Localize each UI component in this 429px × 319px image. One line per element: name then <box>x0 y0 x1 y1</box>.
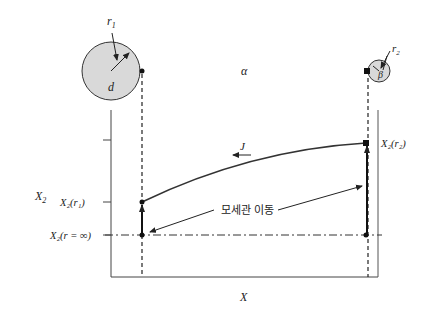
capillary-pointer-left <box>150 210 214 232</box>
y-axis-label: X2 <box>34 189 46 205</box>
label-r2: r2 <box>392 42 400 57</box>
label-X2-rinf: X₂(r = ∞) <box>49 230 91 242</box>
label-r1: r1 <box>107 14 116 30</box>
concentration-curve <box>142 143 366 202</box>
label-X2-r1: X₂(r₁) <box>59 197 85 209</box>
label-X2-r2: X₂(r₂) <box>380 138 406 150</box>
left-interface-dot <box>140 69 145 74</box>
label-capillary-transport: 모세관 이동 <box>221 204 275 217</box>
x-axis-label: X <box>239 290 248 304</box>
label-J: J <box>240 140 246 152</box>
large-particle-d: r1 d <box>82 14 140 100</box>
label-d: d <box>108 80 115 94</box>
label-beta: β <box>377 69 383 80</box>
label-alpha: α <box>241 64 248 78</box>
right-interface-square <box>364 68 370 74</box>
small-particle-beta: r2 β <box>368 42 400 82</box>
capillary-pointer-right <box>278 186 362 210</box>
diagram-canvas: r1 d α r2 β J 모세관 이동 X2 X X₂(r₁) <box>0 0 429 319</box>
